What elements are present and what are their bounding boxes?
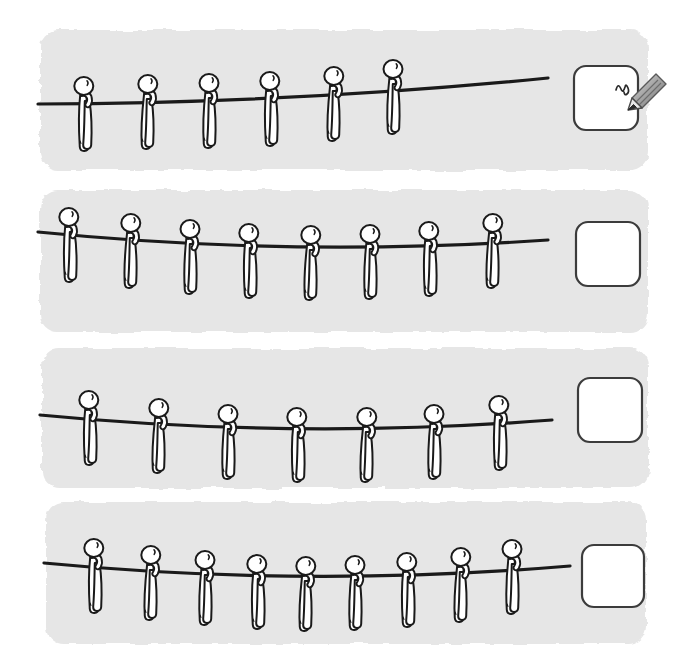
figure-head: [346, 556, 365, 574]
figure-foot-mark: [495, 460, 496, 462]
figure-head: [138, 75, 157, 93]
figure-foot-mark: [266, 136, 267, 138]
figure-foot-mark: [245, 288, 246, 290]
figure-foot-mark: [65, 272, 66, 274]
figure-foot-mark: [185, 284, 186, 286]
figure-head: [489, 396, 508, 414]
figure-head: [397, 553, 416, 571]
worksheet-row-3: [40, 348, 648, 488]
figure-head: [483, 214, 502, 232]
figure-leg: [353, 580, 361, 628]
figure-foot-mark: [403, 617, 404, 619]
worksheet-row-1: [38, 30, 666, 170]
figure-head: [357, 408, 376, 426]
answer-box-row-1[interactable]: [574, 66, 638, 130]
figure-head: [74, 77, 93, 95]
figure-head: [301, 226, 320, 244]
figure-head: [451, 548, 470, 566]
figure-leg: [432, 429, 440, 477]
figure-foot-mark: [455, 612, 456, 614]
figure-foot-mark: [90, 603, 91, 605]
figure-head: [121, 214, 140, 232]
figure-foot-mark: [361, 472, 362, 474]
figure-foot-mark: [388, 124, 389, 126]
figure-foot-mark: [223, 469, 224, 471]
figure-foot-mark: [425, 286, 426, 288]
figure-foot-mark: [204, 138, 205, 140]
figure-head: [239, 224, 258, 242]
figure-head: [287, 408, 306, 426]
answer-box-row-2[interactable]: [576, 222, 640, 286]
figure-foot-mark: [142, 139, 143, 141]
figure-leg: [510, 564, 518, 612]
figure-head: [59, 208, 78, 226]
figure-foot-mark: [328, 131, 329, 133]
worksheet-row-4: [44, 502, 646, 644]
figure-head: [260, 72, 279, 90]
figure-head: [141, 546, 160, 564]
figure-foot-mark: [145, 610, 146, 612]
answer-box-row-4[interactable]: [582, 545, 644, 607]
figure-foot-mark: [200, 615, 201, 617]
figure-leg: [203, 575, 211, 623]
figure-foot-mark: [85, 455, 86, 457]
figure-foot-mark: [365, 289, 366, 291]
figure-foot-mark: [125, 278, 126, 280]
figure-foot-mark: [487, 278, 488, 280]
figure-leg: [207, 98, 215, 146]
figure-head: [425, 405, 444, 423]
figure-leg: [368, 249, 376, 297]
figure-head: [79, 391, 98, 409]
worksheet-row-2: [38, 190, 648, 332]
figure-foot-mark: [305, 290, 306, 292]
row-panel-background: [40, 30, 648, 170]
figure-head: [324, 67, 343, 85]
row-panel-background: [42, 348, 648, 488]
figure-foot-mark: [253, 619, 254, 621]
figure-head: [181, 220, 200, 238]
figure-foot-mark: [507, 604, 508, 606]
answer-box-row-3[interactable]: [578, 378, 642, 442]
figure-leg: [188, 244, 196, 292]
figure-head: [419, 222, 438, 240]
figure-head: [200, 74, 219, 92]
figure-head: [361, 225, 380, 243]
figure-head: [247, 555, 266, 573]
figure-foot-mark: [153, 463, 154, 465]
figure-head: [503, 540, 522, 558]
figure-foot-mark: [350, 620, 351, 622]
figure-head: [219, 405, 238, 423]
figure-head: [84, 539, 103, 557]
counting-worksheet: [0, 0, 692, 655]
row-panel-background: [46, 502, 646, 644]
figure-head: [149, 399, 168, 417]
figure-foot-mark: [300, 621, 301, 623]
figure-head: [384, 60, 403, 78]
figure-head: [196, 551, 215, 569]
figure-leg: [391, 84, 399, 132]
figure-leg: [226, 429, 234, 477]
figure-foot-mark: [429, 469, 430, 471]
figure-head: [296, 557, 315, 575]
figure-foot-mark: [80, 141, 81, 143]
figure-foot-mark: [293, 472, 294, 474]
